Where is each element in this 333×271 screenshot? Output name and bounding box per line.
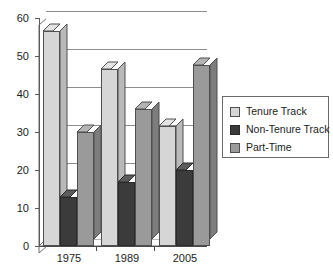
bar-1975-part-time — [77, 132, 94, 246]
bar-2005-tenure-track — [159, 126, 176, 246]
bar-1975-non-tenure-track — [60, 197, 77, 246]
chart-legend: Tenure Track Non-Tenure Track Part-Time — [222, 96, 329, 158]
legend-item-tenure-track: Tenure Track — [230, 103, 328, 120]
gridline-50 — [46, 49, 207, 50]
y-tick-60: 60 — [35, 18, 40, 19]
x-tick-label-1975: 1975 — [45, 252, 93, 264]
legend-swatch-part-time — [230, 143, 240, 153]
plot-area: 60 50 40 30 20 10 0 1975 1989 2005 — [39, 11, 207, 246]
legend-label-tenure-track: Tenure Track — [246, 106, 307, 117]
gridline-60 — [46, 11, 207, 12]
legend-swatch-tenure-track — [230, 107, 240, 117]
y-tick-label-50: 50 — [17, 51, 29, 62]
y-tick-30: 30 — [35, 132, 40, 133]
bar-1989-non-tenure-track — [118, 182, 135, 246]
gridline-40 — [46, 87, 207, 88]
y-tick-50: 50 — [35, 56, 40, 57]
y-tick-label-40: 40 — [17, 89, 29, 100]
y-tick-label-20: 20 — [17, 165, 29, 176]
y-tick-label-0: 0 — [23, 241, 29, 252]
legend-label-non-tenure-track: Non-Tenure Track — [246, 124, 329, 135]
bar-1975-tenure-track — [43, 31, 60, 246]
y-tick-20: 20 — [35, 170, 40, 171]
x-tick-label-2005: 2005 — [161, 252, 209, 264]
legend-item-non-tenure-track: Non-Tenure Track — [230, 121, 328, 138]
legend-swatch-non-tenure-track — [230, 125, 240, 135]
bar-2005-non-tenure-track — [176, 170, 193, 246]
legend-item-part-time: Part-Time — [230, 139, 328, 156]
x-axis-line — [39, 246, 207, 247]
bar-1989-part-time — [135, 109, 152, 246]
y-tick-0: 0 — [35, 246, 40, 247]
y-tick-label-30: 30 — [17, 127, 29, 138]
bar-chart: 60 50 40 30 20 10 0 1975 1989 2005 Tenur… — [0, 0, 333, 271]
x-tick-mark-1989 — [154, 246, 155, 251]
legend-label-part-time: Part-Time — [246, 142, 292, 153]
y-tick-40: 40 — [35, 94, 40, 95]
y-tick-label-10: 10 — [17, 203, 29, 214]
x-tick-label-1989: 1989 — [103, 252, 151, 264]
x-tick-mark-1975 — [96, 246, 97, 251]
y-tick-label-60: 60 — [17, 13, 29, 24]
y-tick-10: 10 — [35, 208, 40, 209]
bar-1989-tenure-track — [101, 69, 118, 246]
bar-2005-part-time — [193, 65, 210, 246]
